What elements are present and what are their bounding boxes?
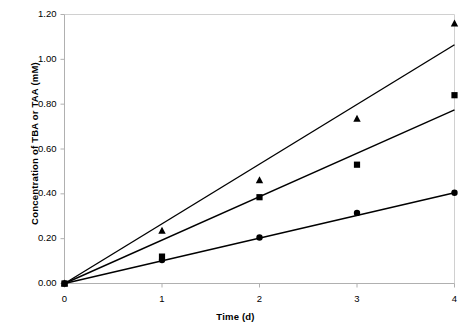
data-point-square bbox=[256, 194, 262, 200]
data-point-circle bbox=[61, 280, 67, 286]
data-marker-group bbox=[61, 19, 458, 286]
data-point-circle bbox=[159, 257, 165, 263]
trendline-group bbox=[65, 45, 455, 284]
data-point-circle bbox=[256, 234, 262, 240]
data-point-square bbox=[354, 162, 360, 168]
axis-tick-marks bbox=[61, 15, 455, 288]
data-point-triangle bbox=[451, 19, 458, 26]
plot-frame bbox=[65, 15, 455, 284]
data-point-circle bbox=[451, 190, 457, 196]
trendline-triangle bbox=[65, 45, 455, 284]
data-point-circle bbox=[354, 210, 360, 216]
data-point-triangle bbox=[353, 115, 360, 122]
chart-container: Concentration of TBA or TAA (mM) Time (d… bbox=[0, 0, 471, 332]
data-point-square bbox=[451, 92, 457, 98]
plot-area bbox=[0, 0, 471, 332]
data-point-triangle bbox=[256, 176, 263, 183]
data-point-triangle bbox=[158, 227, 165, 234]
